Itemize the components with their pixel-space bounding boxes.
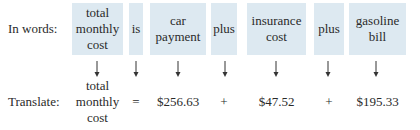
words-row-label: In words: [8, 21, 57, 37]
translate-equals: = [129, 82, 143, 122]
down-arrow-icon [173, 60, 183, 78]
translate-row-label: Translate: [8, 94, 60, 110]
word-text: plus [318, 21, 340, 37]
word-box-is: is [129, 3, 143, 55]
down-arrow-icon [323, 60, 333, 78]
down-arrow-icon [92, 60, 102, 78]
word-box-plus-2: plus [314, 3, 344, 55]
word-box-gasoline-bill: gasoline bill [349, 3, 406, 55]
translate-text: = [132, 94, 139, 110]
translate-text: $256.63 [157, 94, 199, 110]
down-arrow-icon [371, 60, 381, 78]
translate-insurance-value: $47.52 [247, 82, 306, 122]
word-text: gasoline bill [356, 13, 399, 45]
translate-text: $195.33 [356, 94, 398, 110]
translate-text: total monthly cost [76, 78, 119, 126]
translate-car-payment-value: $256.63 [150, 82, 206, 122]
word-box-total-monthly-cost: total monthly cost [72, 3, 123, 55]
word-text: car payment [156, 13, 201, 45]
word-text: insurance cost [252, 13, 302, 45]
translate-text: $47.52 [259, 94, 295, 110]
down-arrow-icon [220, 60, 230, 78]
word-box-insurance-cost: insurance cost [247, 3, 306, 55]
translate-text: + [325, 94, 332, 110]
word-text: plus [213, 21, 235, 37]
word-text: is [132, 21, 141, 37]
down-arrow-icon [271, 60, 281, 78]
translate-plus-1: + [211, 82, 237, 122]
translate-text: + [220, 94, 227, 110]
translate-plus-2: + [314, 82, 344, 122]
translate-total-monthly-cost: total monthly cost [72, 82, 123, 122]
down-arrow-icon [131, 60, 141, 78]
word-text: total monthly cost [76, 5, 119, 53]
word-box-plus-1: plus [211, 3, 237, 55]
translate-gasoline-value: $195.33 [349, 82, 406, 122]
word-box-car-payment: car payment [150, 3, 206, 55]
